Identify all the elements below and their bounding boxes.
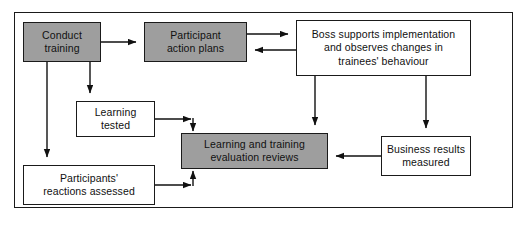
- node-boss-supports-label: Boss supports implementation and observe…: [309, 28, 458, 68]
- node-participants-reactions-assessed[interactable]: Participants' reactions assessed: [23, 165, 155, 205]
- node-participant-action-plans-label: Participant action plans: [164, 29, 227, 56]
- node-business-results-measured[interactable]: Business results measured: [381, 136, 471, 176]
- node-learning-training-evaluation-reviews-label: Learning and training evaluation reviews: [201, 138, 308, 165]
- node-boss-supports[interactable]: Boss supports implementation and observe…: [296, 20, 471, 76]
- node-learning-tested[interactable]: Learning tested: [76, 101, 155, 137]
- node-participant-action-plans[interactable]: Participant action plans: [144, 22, 247, 62]
- node-conduct-training-label: Conduct training: [39, 29, 85, 56]
- node-participants-reactions-assessed-label: Participants' reactions assessed: [40, 172, 138, 199]
- node-learning-training-evaluation-reviews[interactable]: Learning and training evaluation reviews: [181, 133, 328, 169]
- node-business-results-measured-label: Business results measured: [384, 143, 468, 170]
- flowchart-canvas: Conduct training Participant action plan…: [0, 0, 527, 229]
- node-conduct-training[interactable]: Conduct training: [23, 22, 101, 62]
- node-learning-tested-label: Learning tested: [92, 106, 140, 133]
